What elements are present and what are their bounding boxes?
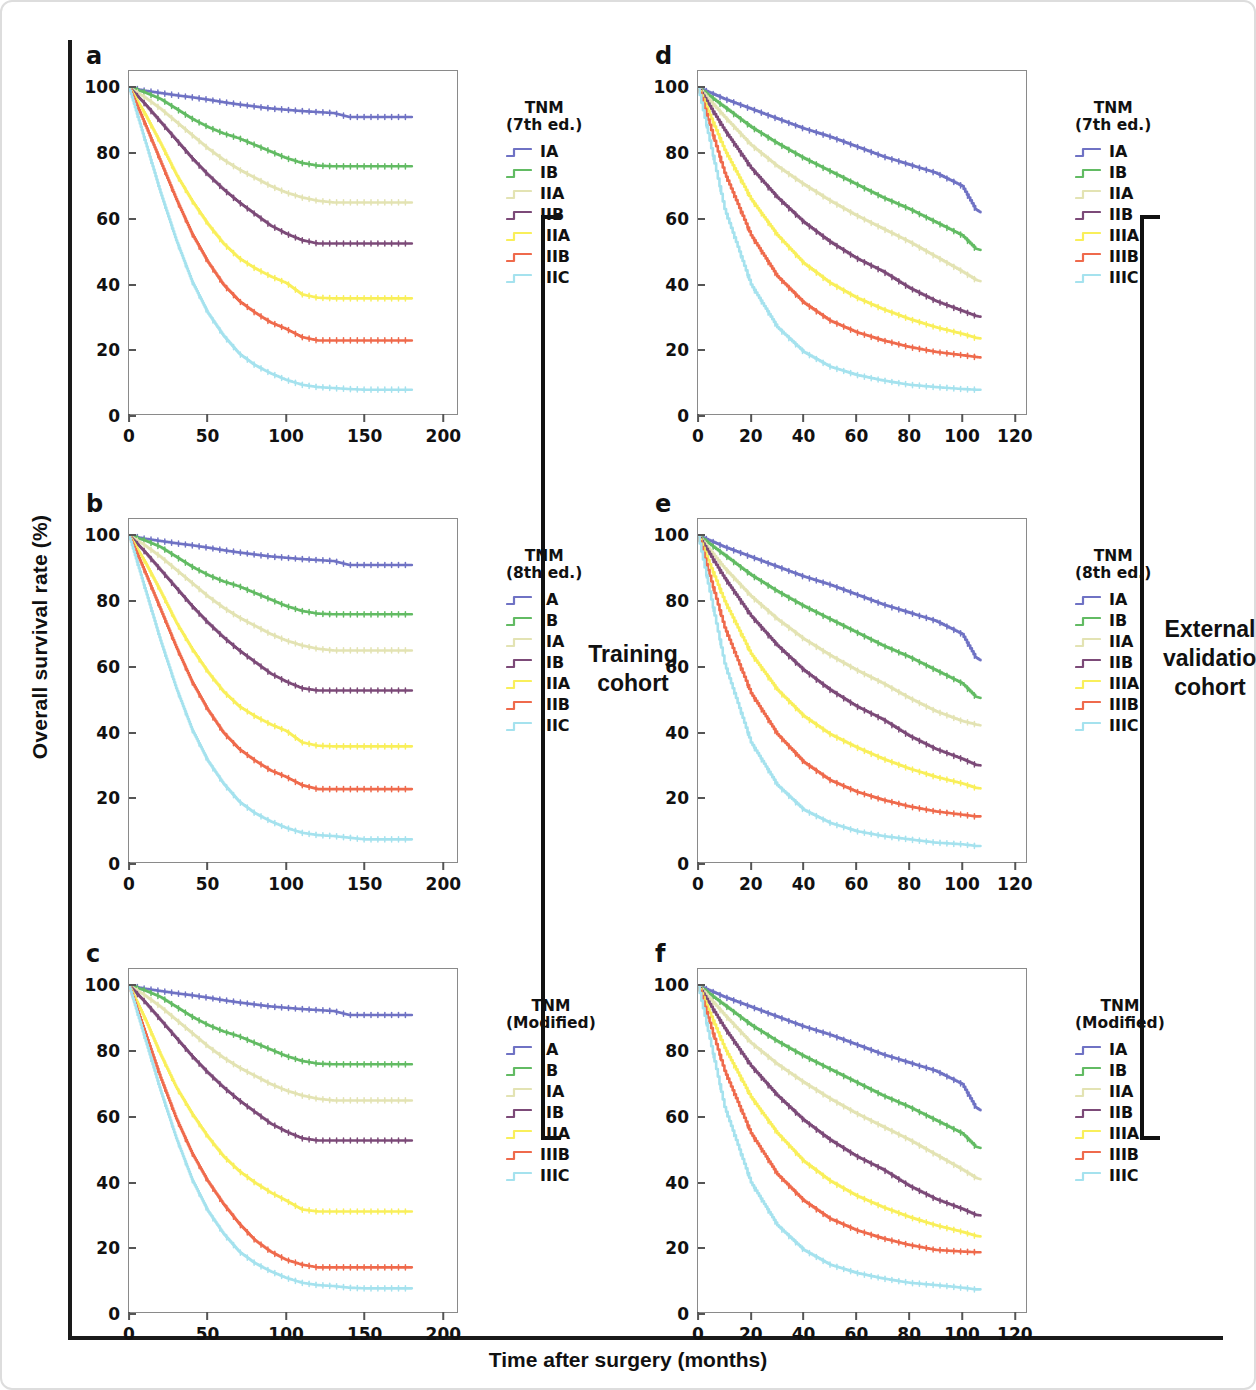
legend-label-IIB: IIB: [540, 1105, 564, 1121]
legend-item-IB[interactable]: IB: [506, 1061, 596, 1082]
legend-item-IIIA[interactable]: IIIA: [506, 1124, 596, 1145]
curve-IIIB: [698, 985, 980, 1252]
legend-item-IIIA[interactable]: IIIA: [1075, 674, 1151, 695]
plot-box-d: 020406080100020406080100120: [697, 70, 1027, 415]
legend-label-IB: IB: [540, 1063, 558, 1079]
plot-area-f: 020406080100020406080100120TNM(Modified)…: [697, 968, 1027, 1313]
legend-label-IIA: IIA: [1109, 634, 1133, 650]
x-tick-100: 100: [268, 1312, 304, 1344]
legend-item-IIA[interactable]: IIA: [1075, 1082, 1165, 1103]
external-validation-cohort-label: External validation cohort: [1163, 615, 1256, 701]
legend-item-IIIB[interactable]: IIIB: [1075, 247, 1151, 268]
legend-item-IA[interactable]: IA: [506, 142, 582, 163]
y-tick-60: 60: [665, 657, 698, 677]
legend-label-IA: IA: [1109, 1042, 1127, 1058]
legend-item-IIB[interactable]: IIB: [506, 653, 582, 674]
legend-item-IB[interactable]: IB: [1075, 611, 1151, 632]
legend-item-IB[interactable]: IB: [1075, 1061, 1165, 1082]
legend-item-IIB[interactable]: IIB: [1075, 1103, 1165, 1124]
legend-item-IIIC[interactable]: IIIC: [506, 716, 582, 737]
panel-letter-d: d: [655, 42, 672, 70]
legend-item-IIIB[interactable]: IIIB: [506, 1145, 596, 1166]
legend-swatch-IIB-icon: [506, 657, 532, 670]
legend-item-IIB[interactable]: IIB: [506, 205, 582, 226]
legend-item-IA[interactable]: IA: [506, 1040, 596, 1061]
legend-item-IIB[interactable]: IIB: [1075, 205, 1151, 226]
legend-item-IIIB[interactable]: IIIB: [1075, 695, 1151, 716]
legend-label-IIB: IIB: [1109, 655, 1133, 671]
y-tick-100: 100: [654, 975, 699, 995]
x-tick-60: 60: [845, 1312, 869, 1344]
y-tick-20: 20: [665, 788, 698, 808]
legend-item-IIA[interactable]: IIA: [506, 632, 582, 653]
legend-item-IIIA[interactable]: IIIA: [1075, 226, 1151, 247]
legend-item-IB[interactable]: IB: [1075, 163, 1151, 184]
y-tick-60: 60: [665, 209, 698, 229]
legend-label-IIB: IIB: [540, 655, 564, 671]
legend-swatch-IIIB-icon: [1075, 699, 1101, 712]
legend-title-e: TNM(8th ed.): [1075, 548, 1151, 583]
y-tick-80: 80: [665, 591, 698, 611]
legend-item-IIIB[interactable]: IIIB: [506, 695, 582, 716]
plot-box-e: 020406080100020406080100120: [697, 518, 1027, 863]
legend-item-IIIA[interactable]: IIIA: [506, 226, 582, 247]
legend-item-IB[interactable]: IB: [506, 611, 582, 632]
legend-title-f: TNM(Modified): [1075, 998, 1165, 1033]
legend-item-IIIA[interactable]: IIIA: [506, 674, 582, 695]
legend-label-IB: IB: [1109, 165, 1127, 181]
y-tick-20: 20: [96, 788, 129, 808]
legend-label-IIIC: IIIC: [540, 718, 570, 734]
legend-swatch-IIIC-icon: [506, 1170, 532, 1183]
legend-swatch-IB-icon: [1075, 1065, 1101, 1078]
legend-swatch-IIB-icon: [506, 209, 532, 222]
legend-swatch-IIIC-icon: [1075, 720, 1101, 733]
legend-item-IA[interactable]: IA: [1075, 590, 1151, 611]
legend-item-IA[interactable]: IA: [1075, 1040, 1165, 1061]
legend-item-IIA[interactable]: IIA: [506, 184, 582, 205]
legend-item-IIIC[interactable]: IIIC: [1075, 716, 1151, 737]
legend-e: TNM(8th ed.)IAIBIIAIIBIIIAIIIBIIIC: [1075, 548, 1151, 737]
legend-item-IIIC[interactable]: IIIC: [506, 268, 582, 289]
x-tick-120: 120: [997, 1312, 1033, 1344]
legend-b: TNM(8th ed.)IAIBIIAIIBIIIAIIIBIIIC: [506, 548, 582, 737]
legend-c: TNM(Modified)IAIBIIAIIBIIIAIIIBIIIC: [506, 998, 596, 1187]
legend-item-IIIA[interactable]: IIIA: [1075, 1124, 1165, 1145]
legend-item-IIB[interactable]: IIB: [1075, 653, 1151, 674]
legend-item-IA[interactable]: IA: [506, 590, 582, 611]
x-tick-100: 100: [944, 862, 980, 894]
legend-swatch-IA-icon: [1075, 594, 1101, 607]
legend-item-IIB[interactable]: IIB: [506, 1103, 596, 1124]
x-tick-50: 50: [196, 862, 220, 894]
legend-label-IIA: IIA: [540, 186, 564, 202]
legend-item-IIA[interactable]: IIA: [1075, 184, 1151, 205]
x-tick-150: 150: [347, 1312, 383, 1344]
legend-label-IB: IB: [1109, 613, 1127, 629]
legend-item-IA[interactable]: IA: [1075, 142, 1151, 163]
legend-item-IB[interactable]: IB: [506, 163, 582, 184]
legend-label-IIIB: IIIB: [540, 1147, 570, 1163]
plot-area-b: 020406080100050100150200TNM(8th ed.)IAIB…: [128, 518, 458, 863]
plot-area-d: 020406080100020406080100120TNM(7th ed.)I…: [697, 70, 1027, 415]
legend-item-IIIB[interactable]: IIIB: [1075, 1145, 1165, 1166]
legend-label-IB: IB: [540, 613, 558, 629]
legend-item-IIIC[interactable]: IIIC: [506, 1166, 596, 1187]
x-tick-80: 80: [897, 1312, 921, 1344]
legend-label-IIIB: IIIB: [540, 249, 570, 265]
panel-letter-c: c: [86, 940, 100, 968]
legend-swatch-IIIA-icon: [506, 1128, 532, 1141]
legend-label-IIB: IIB: [540, 207, 564, 223]
legend-item-IIIC[interactable]: IIIC: [1075, 1166, 1165, 1187]
y-tick-100: 100: [85, 525, 130, 545]
legend-item-IIIC[interactable]: IIIC: [1075, 268, 1151, 289]
y-tick-100: 100: [654, 77, 699, 97]
legend-d: TNM(7th ed.)IAIBIIAIIBIIIAIIIBIIIC: [1075, 100, 1151, 289]
legend-item-IIA[interactable]: IIA: [1075, 632, 1151, 653]
curve-IB: [129, 985, 412, 1064]
x-tick-120: 120: [997, 414, 1033, 446]
x-tick-0: 0: [123, 1312, 135, 1344]
legend-label-IIA: IIA: [1109, 1084, 1133, 1100]
legend-swatch-IIB-icon: [1075, 209, 1101, 222]
y-tick-60: 60: [665, 1107, 698, 1127]
legend-item-IIA[interactable]: IIA: [506, 1082, 596, 1103]
legend-item-IIIB[interactable]: IIIB: [506, 247, 582, 268]
